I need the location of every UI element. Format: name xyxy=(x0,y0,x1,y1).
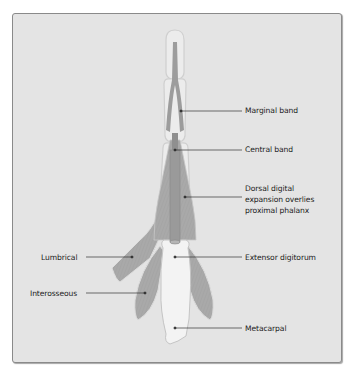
label-interosseous: Interosseous xyxy=(30,288,77,299)
label-central-band: Central band xyxy=(245,144,293,155)
label-marginal-band: Marginal band xyxy=(245,105,298,116)
middle-phalanx xyxy=(164,79,186,142)
label-extensor-digitorum: Extensor digitorum xyxy=(245,252,316,263)
extensor-digitorum-tendon xyxy=(170,150,180,244)
label-metacarpal: Metacarpal xyxy=(245,323,286,334)
label-dorsal-line-2: expansion overlies xyxy=(245,194,314,205)
label-dorsal-line-3: proximal phalanx xyxy=(245,205,309,216)
label-lumbrical: Lumbrical xyxy=(41,252,77,263)
label-dorsal-line-1: Dorsal digital xyxy=(245,183,294,194)
